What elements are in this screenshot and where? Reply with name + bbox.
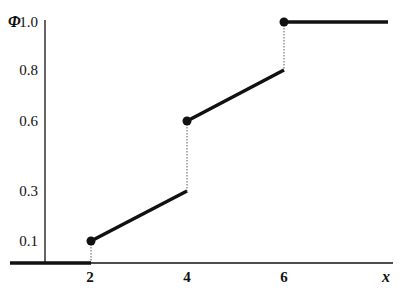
point-4: [183, 117, 192, 126]
point-2: [87, 237, 96, 246]
point-6: [280, 18, 289, 27]
x-tick-6: 6: [280, 269, 288, 285]
y-tick-0-1: 0.1: [19, 233, 38, 249]
segment-4-6: [187, 70, 284, 121]
x-tick-4: 4: [183, 269, 191, 285]
segment-2-4: [91, 191, 187, 241]
cdf-chart: Φ 1.0 0.8 0.6 0.3 0.1 2 4 6 x: [0, 0, 404, 290]
y-tick-0-6: 0.6: [19, 113, 38, 129]
x-tick-2: 2: [86, 269, 94, 285]
y-tick-1-0: 1.0: [19, 14, 38, 30]
y-tick-0-3: 0.3: [19, 183, 38, 199]
x-axis-label: x: [381, 268, 390, 285]
y-tick-0-8: 0.8: [19, 62, 38, 78]
